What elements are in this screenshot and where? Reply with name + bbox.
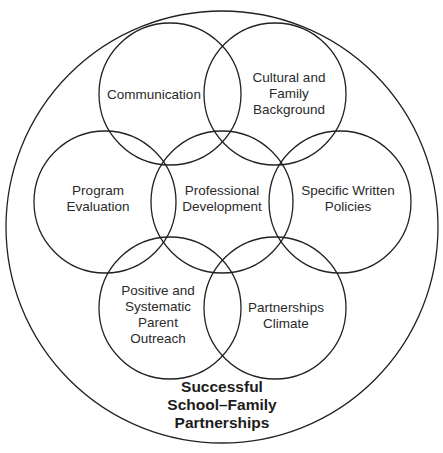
- diagram-title: Successful School–Family Partnerships: [167, 378, 276, 432]
- label-parent-outreach: Positive and Systematic Parent Outreach: [121, 283, 195, 347]
- label-partnerships-climate: Partnerships Climate: [248, 300, 324, 332]
- label-cultural-family-background: Cultural and Family Background: [253, 70, 326, 118]
- label-specific-written-policies: Specific Written Policies: [301, 183, 395, 215]
- label-communication: Communication: [107, 87, 201, 103]
- label-professional-development: Professional Development: [182, 183, 262, 215]
- label-program-evaluation: Program Evaluation: [66, 183, 129, 215]
